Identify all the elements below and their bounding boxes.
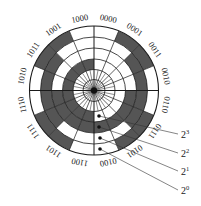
bit-weight-label: 21	[181, 165, 189, 177]
bit-sample-dot	[98, 136, 102, 140]
gray-code-disk: 0000000100110010011001110101010011001101…	[0, 0, 201, 206]
sector-code-label: 0110	[160, 96, 173, 114]
bit-sample-dot	[97, 125, 101, 129]
sector-code-label: 1100	[70, 156, 88, 169]
bit-weight-label: 22	[181, 147, 189, 159]
bit-sample-dot	[97, 114, 101, 118]
sector-code-label: 0000	[99, 12, 118, 25]
sector-code-label: 0010	[160, 67, 173, 86]
sector-code-label: 1110	[15, 96, 28, 114]
bit-sample-dot	[98, 147, 102, 151]
bit-weight-label: 20	[181, 184, 189, 196]
center-hub-dot	[91, 87, 97, 93]
sector-code-label: 0100	[99, 156, 118, 169]
sector-code-label: 1010	[15, 67, 28, 86]
sector-code-label: 1000	[70, 12, 89, 25]
bit-weight-label: 23	[181, 128, 189, 140]
